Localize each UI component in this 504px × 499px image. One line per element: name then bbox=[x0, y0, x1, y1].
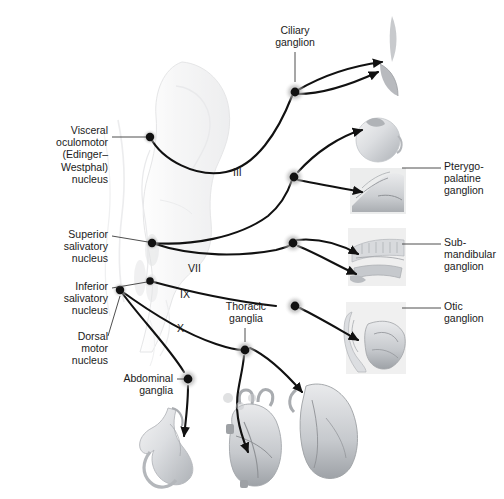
leader-superior-salivatory bbox=[112, 236, 148, 242]
abdominal-to-stomach bbox=[184, 386, 188, 436]
eyelid-lacrimal-gland-image bbox=[380, 16, 398, 96]
label-thoracic-ganglia: Thoracic ganglia bbox=[216, 300, 276, 324]
label-cranial-nerve-vii: VII bbox=[188, 262, 201, 274]
ciliary-ganglion-node bbox=[284, 81, 306, 103]
label-inferior-salivatory-nucleus: Inferior salivatory nucleus bbox=[26, 280, 108, 317]
eyeball-image bbox=[356, 118, 402, 162]
label-otic-ganglion: Otic ganglion bbox=[444, 300, 504, 324]
submandibular-ganglion-node bbox=[282, 232, 304, 254]
lung-image bbox=[290, 384, 358, 478]
inferior-salivatory-nucleus-node bbox=[143, 274, 157, 288]
label-cranial-nerve-x: X bbox=[177, 322, 184, 334]
label-cranial-nerve-iii: III bbox=[233, 166, 242, 178]
submandibular-to-gland bbox=[298, 246, 356, 274]
label-cranial-nerve-ix: IX bbox=[180, 288, 190, 300]
figure-canvas: Visceral oculomotor (Edinger– Westphal) … bbox=[0, 0, 504, 499]
superior-salivatory-nucleus-node bbox=[144, 235, 160, 251]
label-pterygopalatine-ganglion: Pterygo- palatine ganglion bbox=[444, 160, 504, 197]
label-superior-salivatory-nucleus: Superior salivatory nucleus bbox=[26, 228, 108, 265]
label-ciliary-ganglion: Ciliary ganglion bbox=[266, 24, 324, 48]
otic-ganglion-node bbox=[284, 295, 306, 317]
label-visceral-oculomotor-nucleus: Visceral oculomotor (Edinger– Westphal) … bbox=[16, 124, 108, 185]
heart-image bbox=[226, 390, 281, 488]
dorsal-motor-nucleus-node bbox=[112, 282, 128, 298]
label-abdominal-ganglia: Abdominal ganglia bbox=[97, 372, 173, 396]
label-dorsal-motor-nucleus: Dorsal motor nucleus bbox=[30, 330, 108, 367]
mandible-teeth-image bbox=[348, 228, 406, 286]
pterygopalatine-ganglion-node bbox=[283, 166, 305, 188]
vagus-to-lung bbox=[250, 348, 302, 392]
label-submandibular-ganglion: Sub- mandibular ganglion bbox=[444, 236, 504, 273]
pterygopalatine-to-eyeball bbox=[298, 130, 362, 172]
thoracic-ganglion-node bbox=[234, 339, 256, 361]
